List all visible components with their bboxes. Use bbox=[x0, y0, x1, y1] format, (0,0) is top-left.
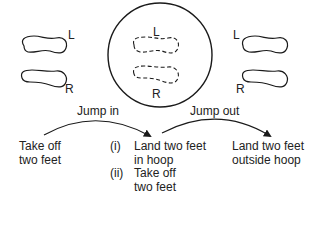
hoop-left-foot-dashed bbox=[134, 37, 179, 53]
start-line-1: Take off bbox=[19, 140, 61, 153]
right-footprints bbox=[242, 36, 287, 87]
hoop-label-r: R bbox=[152, 88, 161, 101]
left-feet-label-r: R bbox=[65, 83, 74, 96]
hoop-right-foot-dashed bbox=[133, 66, 178, 83]
landing-left-foot-outline bbox=[243, 36, 288, 53]
step-number: (ii) bbox=[110, 167, 123, 180]
step-line-1: Land two feet bbox=[134, 140, 206, 153]
step-line-1: Take off bbox=[134, 167, 176, 180]
jump-out-label: Jump out bbox=[190, 105, 239, 118]
jump-in-arrow bbox=[44, 121, 150, 136]
left-foot-outline bbox=[22, 36, 66, 53]
right-foot-outline bbox=[21, 70, 66, 87]
step-number: (i) bbox=[110, 140, 121, 153]
end-line-1: Land two feet bbox=[232, 140, 304, 153]
jump-in-label: Jump in bbox=[77, 105, 119, 118]
hoop-label-l: L bbox=[153, 26, 160, 39]
left-footprints bbox=[21, 36, 66, 87]
landing-right-foot-outline bbox=[242, 70, 287, 87]
step-line-2: two feet bbox=[134, 181, 176, 194]
start-line-2: two feet bbox=[19, 154, 61, 167]
right-feet-label-r: R bbox=[236, 83, 245, 96]
right-feet-label-l: L bbox=[233, 29, 240, 42]
jump-out-arrow bbox=[162, 119, 270, 136]
end-line-2: outside hoop bbox=[232, 154, 301, 167]
left-feet-label-l: L bbox=[68, 29, 75, 42]
